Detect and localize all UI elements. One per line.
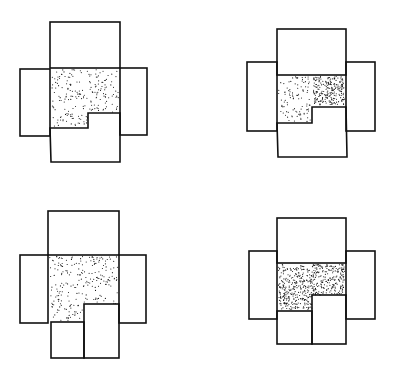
left-box [20, 69, 50, 136]
left-box [249, 251, 277, 319]
center-stipple [52, 69, 119, 126]
bottom-right-box [84, 304, 119, 358]
top-box [50, 22, 120, 68]
figure-top-right [247, 29, 375, 157]
right-box [346, 251, 375, 319]
bottom-left-box [277, 311, 312, 344]
figure-bottom-left [20, 211, 146, 358]
sparse-stipple [278, 76, 311, 122]
dense-stipple [313, 76, 345, 105]
top-box [277, 218, 346, 263]
top-box [277, 29, 346, 75]
bottom-right-box [312, 295, 346, 344]
bottom-notched-box [277, 107, 347, 157]
right-box [120, 68, 147, 135]
left-box [20, 255, 48, 323]
right-box [346, 62, 375, 131]
diagram-svg [0, 0, 398, 372]
left-box [247, 62, 277, 131]
top-box [48, 211, 119, 255]
figure-bottom-right [249, 218, 375, 344]
diagram-canvas [0, 0, 398, 372]
figure-top-left [20, 22, 147, 162]
right-box [119, 255, 146, 323]
bottom-left-box [51, 322, 84, 358]
